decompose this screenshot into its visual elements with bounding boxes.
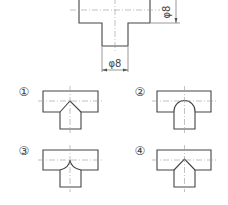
dim-arrow-left-icon xyxy=(102,69,107,72)
dim-arrow-right-icon xyxy=(123,69,128,72)
option-1[interactable]: ① xyxy=(19,85,103,133)
dim-vertical-text: φ8 xyxy=(161,6,172,19)
option-2-outline xyxy=(157,91,211,129)
option-2-label: ② xyxy=(135,85,146,99)
option-4-outline xyxy=(157,150,211,187)
option-1-outline xyxy=(43,91,98,129)
option-3[interactable]: ③ xyxy=(19,144,103,192)
option-1-label: ① xyxy=(19,85,30,99)
option-2[interactable]: ② xyxy=(135,85,216,133)
option-3-intersection xyxy=(60,160,81,170)
option-1-intersection xyxy=(60,101,81,112)
option-4-label: ④ xyxy=(135,144,146,158)
option-3-label: ③ xyxy=(19,144,30,158)
main-t-outline xyxy=(79,0,150,46)
drawing-canvas: φ8 φ8 ① ② ③ ④ xyxy=(0,0,228,205)
main-view: φ8 φ8 xyxy=(70,0,180,72)
option-4[interactable]: ④ xyxy=(135,144,216,192)
option-3-outline xyxy=(43,150,98,187)
dim-arrow-icon xyxy=(175,18,178,23)
dim-horizontal-text: φ8 xyxy=(109,58,122,69)
